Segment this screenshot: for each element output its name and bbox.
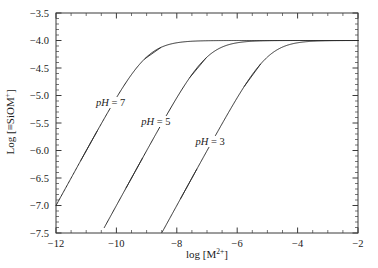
curve-ph=3	[162, 41, 358, 233]
x-axis-title: log [M2+]	[186, 247, 228, 261]
x-tick-label: −8	[171, 238, 182, 249]
x-tick-label: −12	[48, 238, 64, 249]
annotation-leader	[126, 158, 143, 188]
y-tick-label: −7.5	[30, 228, 49, 239]
y-tick-label: −3.5	[30, 8, 49, 19]
y-tick-label: −4.0	[30, 35, 49, 46]
x-tick-label: −2	[352, 238, 363, 249]
annotation-leader	[244, 64, 261, 87]
x-tick-label: −6	[232, 238, 243, 249]
plot-canvas: −12−10−8−6−4−2 −7.5−7.0−6.5−6.0−5.5−5.0−…	[0, 0, 378, 268]
annotation-leader	[190, 58, 207, 78]
x-tick-label: −10	[108, 238, 124, 249]
annotation-leader	[180, 169, 197, 199]
series-label-ph=5: pH = 5	[140, 116, 171, 127]
annotation-leader	[144, 47, 161, 59]
y-axis-tick-labels: −7.5−7.0−6.5−6.0−5.5−5.0−4.5−4.0−3.5	[30, 8, 49, 239]
curve-ph=7	[56, 41, 358, 206]
y-tick-label: −6.5	[30, 173, 49, 184]
series-label-ph=3: pH = 3	[195, 136, 226, 147]
y-axis-title: Log [≡SiOM+]	[3, 89, 17, 154]
y-tick-label: −5.5	[30, 118, 49, 129]
x-tick-label: −4	[292, 238, 304, 249]
annotation-leader	[81, 131, 98, 161]
chart-figure: −12−10−8−6−4−2 −7.5−7.0−6.5−6.0−5.5−5.0−…	[0, 0, 378, 268]
series-label-ph=7: pH = 7	[95, 97, 126, 108]
y-tick-label: −5.0	[30, 90, 49, 101]
curve-ph=5	[104, 41, 358, 228]
y-tick-label: −4.5	[30, 63, 49, 74]
y-tick-label: −6.0	[30, 145, 49, 156]
y-tick-label: −7.0	[30, 200, 49, 211]
